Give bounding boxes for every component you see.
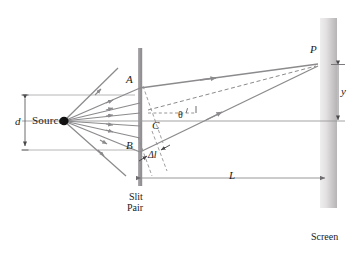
path-difference-label: Δl — [148, 150, 157, 160]
dashed-center-line-to-P — [148, 66, 316, 110]
double-slit-diagram: Source d A B C P θ Δl L y Slit Pair Scre… — [0, 0, 363, 262]
slit-pair-caption-line1: Slit — [129, 192, 143, 202]
fringe-position-label: y — [341, 86, 346, 97]
ray-fan-1 — [64, 68, 118, 121]
ray-fan-3 — [64, 103, 140, 121]
slit-pair-caption-line2: Pair — [127, 203, 143, 213]
screen-caption: Screen — [311, 232, 338, 242]
ray-B-to-P — [140, 66, 318, 152]
ray-fan-2 — [64, 88, 140, 121]
slit-A-label: A — [126, 74, 133, 85]
ray-fan-4 — [64, 113, 140, 121]
diagram-canvas — [0, 0, 363, 262]
screen-bar — [320, 18, 337, 208]
ray-fan-8 — [64, 121, 126, 176]
slit-barrier-bar — [138, 48, 142, 186]
point-P-label: P — [310, 44, 317, 55]
theta-arc — [186, 108, 188, 113]
point-C-label: C — [152, 120, 159, 131]
source-label: Source — [32, 115, 64, 126]
ray-B-to-P-arrow — [206, 112, 222, 120]
wavefront-dash-at-A — [143, 86, 163, 143]
source-ray-arrowheads — [95, 89, 113, 156]
screen-distance-label: L — [229, 170, 235, 181]
angle-theta-label: θ — [178, 110, 183, 120]
slit-separation-label: d — [15, 116, 21, 127]
ray-A-to-P — [140, 64, 318, 88]
slit-B-label: B — [126, 140, 133, 151]
d-dimension-arrow — [22, 95, 29, 150]
